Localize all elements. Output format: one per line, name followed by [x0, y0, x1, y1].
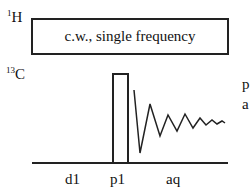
pulse-sequence-graphic — [0, 0, 252, 190]
aq-acquisition-label: aq — [166, 171, 180, 188]
p1-pulse-label: p1 — [110, 171, 125, 188]
fid-signal — [134, 90, 225, 153]
cut-off-text-2: a — [242, 96, 249, 113]
p1-pulse — [113, 74, 128, 163]
cut-off-text-1: p — [242, 76, 250, 93]
d1-delay-label: d1 — [65, 171, 80, 188]
